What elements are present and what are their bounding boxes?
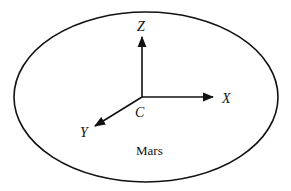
diagram-graphics xyxy=(0,0,291,191)
origin-label: C xyxy=(135,106,144,120)
body-label: Mars xyxy=(136,144,163,157)
y-axis-label: Y xyxy=(80,126,88,140)
diagram-canvas: Z X Y C Mars xyxy=(0,0,291,191)
z-axis-label: Z xyxy=(137,20,145,34)
x-axis-label: X xyxy=(222,92,231,106)
